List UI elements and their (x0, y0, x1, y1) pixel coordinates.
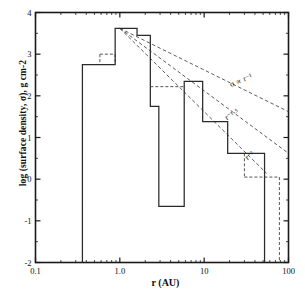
x-axis-label-text: r (AU) (152, 277, 180, 288)
powerlaw-annotation: σ ∝ r⁻¹ (228, 71, 254, 88)
x-tick-label: 0.1 (30, 266, 41, 276)
plot-frame (36, 13, 289, 263)
x-tick-label: 100 (282, 266, 295, 276)
figure-container: 0.11.010100-2-101234σ ∝ r⁻¹r⁻¹·⁵r⁻² log … (0, 0, 305, 296)
x-tick-label: 1.0 (115, 266, 126, 276)
step-histogram (82, 28, 264, 262)
powerlaw-annotation: r⁻² (243, 149, 256, 162)
powerlaw-line (120, 28, 289, 153)
powerlaw-line (120, 28, 267, 173)
x-axis-label: r (AU) (0, 277, 305, 288)
x-tick-label: 10 (200, 266, 209, 276)
y-tick-label: -2 (24, 258, 31, 268)
y-axis-label: log (surface density, σ), g cm-2 (18, 8, 28, 238)
surface-density-plot: 0.11.010100-2-101234σ ∝ r⁻¹r⁻¹·⁵r⁻² (0, 0, 305, 296)
powerlaw-line (120, 28, 289, 111)
figure-caption-fragment (0, 288, 305, 296)
y-tick-label: 4 (27, 8, 32, 18)
powerlaw-annotation: r⁻¹·⁵ (223, 107, 240, 122)
